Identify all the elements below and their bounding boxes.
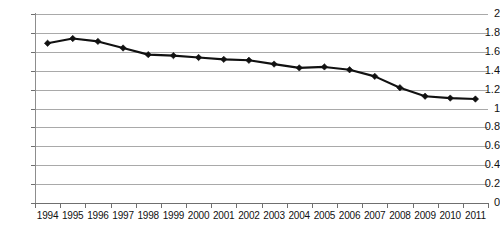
x-axis-tick-mark xyxy=(211,203,212,208)
y-axis-tick-label: 0.4 xyxy=(470,159,500,170)
y-axis-tick-label: 0.6 xyxy=(470,140,500,151)
y-axis-tick-label: 2 xyxy=(470,8,500,19)
gridline xyxy=(35,52,488,53)
y-axis-line xyxy=(35,13,36,204)
x-axis-tick-label: 1998 xyxy=(136,210,161,221)
x-axis-tick-mark xyxy=(236,203,237,208)
x-axis-tick-label: 2009 xyxy=(413,210,438,221)
x-axis-tick-mark xyxy=(161,203,162,208)
y-axis-tick-mark xyxy=(31,71,35,72)
gridline xyxy=(35,90,488,91)
y-axis-tick-label: 0.8 xyxy=(470,121,500,132)
x-axis-tick-label: 1994 xyxy=(35,210,60,221)
x-axis-tick-mark xyxy=(287,203,288,208)
y-axis-tick-mark xyxy=(31,52,35,53)
line-chart: 00.20.40.60.811.21.41.61.82 199419951996… xyxy=(0,0,500,231)
y-axis-tick-mark xyxy=(31,127,35,128)
gridline xyxy=(35,14,488,15)
x-axis-tick-label: 2007 xyxy=(362,210,387,221)
y-axis-tick-mark xyxy=(31,146,35,147)
y-axis-tick-label: 1 xyxy=(470,103,500,114)
y-axis-tick-mark xyxy=(31,184,35,185)
gridline xyxy=(35,71,488,72)
x-axis-tick-mark xyxy=(186,203,187,208)
y-axis-tick-mark xyxy=(31,90,35,91)
gridlines xyxy=(35,14,488,203)
gridline xyxy=(35,146,488,147)
x-axis-tick-label: 2005 xyxy=(312,210,337,221)
y-axis-tick-mark xyxy=(31,109,35,110)
x-axis-tick-mark xyxy=(362,203,363,208)
x-axis-tick-mark xyxy=(387,203,388,208)
y-axis-tick-label: 0.2 xyxy=(470,178,500,189)
x-axis-tick-mark xyxy=(35,203,36,208)
x-axis-tick-mark xyxy=(111,203,112,208)
x-axis-tick-label: 2011 xyxy=(463,210,488,221)
y-axis-tick-label: 1.6 xyxy=(470,46,500,57)
x-axis-tick-mark xyxy=(413,203,414,208)
gridline xyxy=(35,33,488,34)
x-axis-tick-mark xyxy=(60,203,61,208)
x-axis-tick-label: 2003 xyxy=(262,210,287,221)
x-axis-tick-mark xyxy=(85,203,86,208)
x-axis-tick-label: 2000 xyxy=(186,210,211,221)
x-axis-tick-label: 1995 xyxy=(60,210,85,221)
x-axis-tick-label: 2002 xyxy=(236,210,261,221)
x-axis-tick-mark xyxy=(262,203,263,208)
x-axis-tick-label: 2001 xyxy=(211,210,236,221)
x-axis-tick-mark xyxy=(312,203,313,208)
gridline xyxy=(35,165,488,166)
x-axis-tick-label: 2010 xyxy=(438,210,463,221)
y-axis-tick-mark xyxy=(31,14,35,15)
gridline xyxy=(35,127,488,128)
x-axis-tick-label: 2004 xyxy=(287,210,312,221)
x-axis-tick-label: 1997 xyxy=(111,210,136,221)
y-axis-tick-label: 1.8 xyxy=(470,27,500,38)
x-axis-tick-label: 2006 xyxy=(337,210,362,221)
x-axis-tick-mark xyxy=(438,203,439,208)
x-axis-tick-mark xyxy=(136,203,137,208)
x-axis-tick-mark xyxy=(337,203,338,208)
y-axis-tick-label: 1.4 xyxy=(470,65,500,76)
y-axis-tick-label: 1.2 xyxy=(470,84,500,95)
y-axis-tick-mark xyxy=(31,165,35,166)
gridline xyxy=(35,109,488,110)
x-axis-tick-mark xyxy=(463,203,464,208)
y-axis-tick-mark xyxy=(31,33,35,34)
gridline xyxy=(35,184,488,185)
x-axis-tick-mark xyxy=(488,203,489,208)
x-axis-tick-label: 2008 xyxy=(387,210,412,221)
x-axis-tick-label: 1996 xyxy=(85,210,110,221)
x-axis-tick-label: 1999 xyxy=(161,210,186,221)
